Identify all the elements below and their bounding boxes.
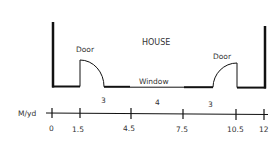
measurement-axis — [46, 108, 268, 120]
axis-unit-label: M/yd — [18, 109, 36, 118]
axis-tick-label-12: 12 — [259, 125, 269, 134]
door-left-swing-arc — [80, 60, 104, 87]
segment-length-2: 4 — [155, 98, 160, 107]
segment-length-3: 3 — [208, 100, 213, 109]
house-title: HOUSE — [142, 38, 170, 47]
door-right-symbol — [213, 63, 237, 88]
axis-tick-label-4-5: 4.5 — [123, 124, 135, 133]
axis-tick-label-10-5: 10.5 — [227, 125, 244, 134]
window-label: Window — [139, 77, 169, 86]
door-right-swing-arc — [213, 63, 237, 87]
door-left-symbol — [80, 60, 104, 87]
door-right-label: Door — [213, 52, 232, 61]
axis-tick-label-0: 0 — [49, 124, 54, 133]
axis-tick-label-7-5: 7.5 — [176, 125, 188, 134]
segment-length-1: 3 — [101, 96, 106, 105]
axis-line — [46, 113, 268, 115]
door-left-label: Door — [76, 45, 95, 54]
house-plan-diagram: HOUSE Door Door Window 3 4 3 M/yd 0 1.5 … — [0, 0, 277, 141]
axis-tick-label-1-5: 1.5 — [72, 125, 84, 134]
